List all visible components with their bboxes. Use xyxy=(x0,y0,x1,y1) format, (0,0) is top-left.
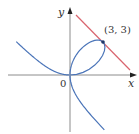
point-label: (3, 3) xyxy=(104,24,131,35)
y-axis-label: y xyxy=(57,6,65,19)
x-axis-label: x xyxy=(128,77,135,90)
folium-lower-branch-curve xyxy=(70,76,104,130)
folium-figure: y x 0 (3, 3) xyxy=(0,0,139,134)
y-axis-arrow-icon xyxy=(68,7,73,14)
folium-left-branch-curve xyxy=(16,42,70,75)
origin-label: 0 xyxy=(60,78,66,89)
folium-loop-curve xyxy=(70,40,105,75)
tangent-point-marker xyxy=(101,40,105,44)
